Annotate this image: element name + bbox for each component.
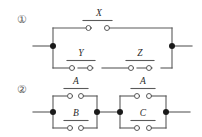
c1-switch-y-contact-left [70,66,75,71]
circuit-diagram-svg [0,0,202,137]
c2-rb-switch-a-contact-left [135,94,140,99]
c2-node-mid-right [117,109,123,115]
figure-canvas: X Y Z A B A C ① ② [0,0,202,137]
circuit-index-one: ① [17,14,27,25]
switch-label-y: Y [75,49,87,59]
c2-lb-switch-a-contact-left [68,94,73,99]
switch-label-right-a: A [137,77,149,87]
switch-label-x: X [93,9,105,19]
c2-node-mid-left [94,109,100,115]
c2-lb-switch-a-contact-right [79,94,84,99]
c1-node-right [169,43,175,49]
circuit-one-group [33,21,192,71]
circuit-index-two: ② [17,84,27,95]
c2-lb-switch-b-contact-left [68,126,73,131]
c1-switch-z-contact-right [147,66,152,71]
c2-rb-switch-a-contact-right [147,94,152,99]
switch-label-c: C [137,109,149,119]
c1-switch-x-contact-right [105,26,110,31]
switch-label-left-a: A [70,77,82,87]
switch-label-z: Z [134,49,146,59]
c1-switch-y-contact-right [88,66,93,71]
c1-node-left [50,43,56,49]
c1-switch-x-contact-left [86,26,91,31]
c2-node-left [50,109,56,115]
c2-rb-switch-c-contact-right [147,126,152,131]
c2-rb-switch-c-contact-left [135,126,140,131]
c2-lb-switch-b-contact-right [79,126,84,131]
c1-switch-z-contact-left [129,66,134,71]
switch-label-b: B [70,109,82,119]
circuit-two-group [33,89,190,131]
c2-node-right [163,109,169,115]
